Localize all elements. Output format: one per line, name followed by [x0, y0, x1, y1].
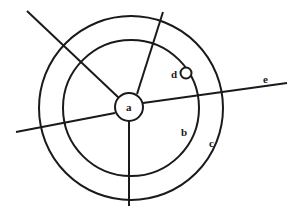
label-b: b	[181, 126, 187, 138]
label-c: c	[209, 137, 214, 149]
label-e: e	[263, 73, 268, 85]
concentric-circles-diagram: a d e b c	[0, 0, 300, 217]
line-upper-left	[27, 11, 119, 98]
small-circle-d	[181, 68, 192, 79]
label-a: a	[126, 101, 132, 113]
line-upper	[137, 12, 163, 94]
diagram-canvas: a d e b c	[0, 0, 300, 217]
line-e	[143, 83, 287, 103]
label-d: d	[171, 68, 177, 80]
